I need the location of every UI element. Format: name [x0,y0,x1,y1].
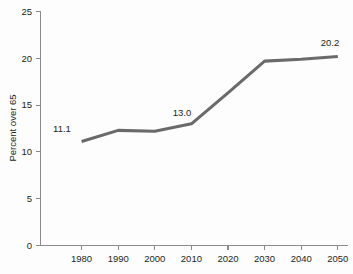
y-tick-label-20: 20 [21,53,32,64]
x-tick-label-2040: 2040 [291,253,312,264]
x-tick-label-2020: 2020 [217,253,238,264]
chart-container: 0 5 10 15 20 25 1980 1990 2000 2010 2020… [0,0,353,274]
data-label-2010: 13.0 [173,107,192,118]
y-tick-label-0: 0 [27,240,32,251]
x-tick-label-2000: 2000 [144,253,165,264]
chart-background [0,0,353,274]
x-tick-label-2030: 2030 [254,253,275,264]
x-tick-label-1990: 1990 [108,253,129,264]
data-label-1980: 11.1 [53,123,71,134]
data-label-2050: 20.2 [321,37,340,48]
line-chart: 0 5 10 15 20 25 1980 1990 2000 2010 2020… [0,0,353,274]
x-tick-label-1980: 1980 [71,253,92,264]
y-tick-label-10: 10 [21,146,32,157]
y-tick-label-15: 15 [21,99,32,110]
x-tick-label-2050: 2050 [327,253,348,264]
y-axis-title: Percent over 65 [7,94,18,161]
y-tick-label-25: 25 [21,6,32,17]
x-tick-label-2010: 2010 [181,253,202,264]
y-tick-label-5: 5 [27,193,32,204]
